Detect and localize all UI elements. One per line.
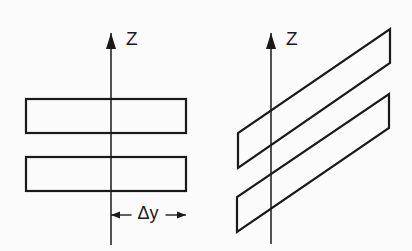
front-view-upper-plate	[26, 99, 186, 133]
front-view-group: Z Δy	[26, 28, 186, 245]
left-z-axis-label: Z	[126, 28, 138, 49]
right-z-axis-arrowhead	[266, 33, 276, 49]
perspective-view-lower-plate	[237, 94, 389, 232]
figure-canvas: Z Δy Z	[0, 0, 412, 251]
parallel-plate-diagram: Z Δy Z	[0, 0, 412, 251]
left-z-axis-arrowhead	[106, 33, 116, 49]
perspective-view-group: Z	[237, 28, 390, 244]
right-z-axis-label: Z	[286, 28, 298, 49]
delta-y-arrowhead-left	[111, 212, 120, 219]
delta-y-label: Δy	[137, 203, 158, 223]
front-view-lower-plate	[26, 157, 186, 191]
delta-y-arrowhead-right	[177, 212, 186, 219]
perspective-view-upper-plate	[238, 29, 390, 168]
